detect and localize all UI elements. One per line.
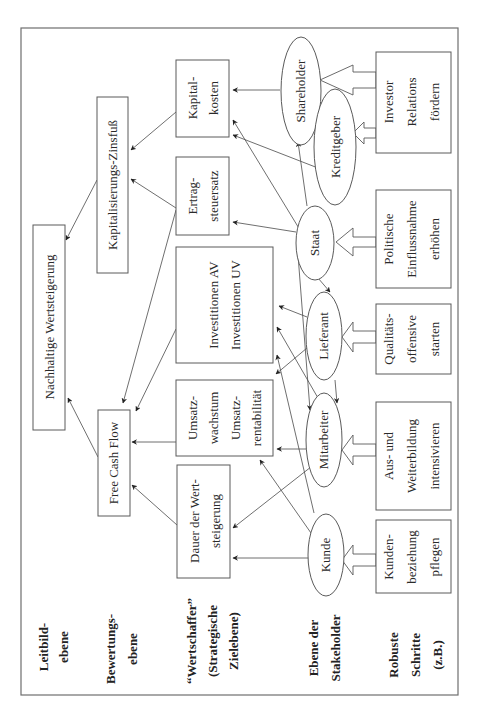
arrow-kundenbeziehung-kunde [342, 545, 376, 575]
stakeholder-kreditgeber: Kreditgeber [314, 89, 356, 205]
level-label-leitbild: Leitbild- ebene [36, 623, 71, 671]
svg-text:Investitionen AV: Investitionen AV [206, 261, 221, 349]
node-umsatz: Umsatz- wachstum Umsatz- rentabilität [176, 380, 273, 456]
svg-text:Politische: Politische [381, 213, 396, 265]
node-ertragsteuersatz: Ertrag- steuersatz [176, 157, 229, 235]
svg-text:Stakeholder: Stakeholder [328, 614, 343, 681]
node-kapitalisierungs-zinsfuss: Kapitalisierungs-Zinsfuß [97, 97, 128, 273]
svg-text:fördern: fördern [427, 82, 442, 121]
stakeholder-staat: Staat [296, 206, 334, 280]
svg-text:Nachhaltige Wertsteigerung: Nachhaltige Wertsteigerung [42, 254, 57, 399]
node-nachhaltige-wertsteigerung: Nachhaltige Wertsteigerung [33, 225, 65, 430]
svg-text:wachstum: wachstum [206, 392, 221, 445]
svg-text:Free Cash Flow: Free Cash Flow [106, 421, 121, 504]
svg-text:erhöhen: erhöhen [427, 218, 442, 260]
svg-text:Einflussnahme: Einflussnahme [404, 200, 419, 277]
svg-text:Kapital-: Kapital- [185, 77, 200, 120]
arrow-investor-kreditgeber [353, 122, 376, 144]
svg-text:Kreditgeber: Kreditgeber [328, 115, 343, 178]
stakeholder-kunde: Kunde [308, 514, 344, 596]
svg-text:Zielebene): Zielebene) [226, 612, 241, 670]
svg-text:Ertrag-: Ertrag- [185, 178, 200, 215]
svg-text:(z.B.): (z.B.) [430, 640, 445, 670]
svg-text:pflegen: pflegen [427, 537, 442, 576]
node-dauer-wertsteigerung: Dauer der Wert- steigerung [177, 465, 230, 578]
value-driver-diagram: Nachhaltige Wertsteigerung Kapitalisieru… [0, 0, 478, 714]
level-label-bewertung: Bewertungs- ebene [103, 614, 140, 684]
svg-text:Kapitalisierungs-Zinsfuß: Kapitalisierungs-Zinsfuß [105, 120, 120, 250]
svg-text:Aus- und: Aus- und [381, 431, 396, 480]
svg-text:starten: starten [427, 321, 442, 356]
svg-text:(Strategische: (Strategische [205, 605, 220, 677]
svg-text:Shareholder: Shareholder [293, 59, 308, 122]
svg-text:Investor: Investor [381, 80, 396, 123]
svg-text:intensivieren: intensivieren [427, 422, 442, 490]
svg-text:Kunden-: Kunden- [381, 534, 396, 580]
step-kundenbeziehung: Kunden- beziehung pflegen [376, 520, 451, 593]
node-free-cash-flow: Free Cash Flow [98, 410, 130, 516]
arrow-politisch-staat [336, 228, 376, 256]
svg-text:Qualitäts-: Qualitäts- [381, 313, 396, 364]
svg-text:steuersatz: steuersatz [206, 170, 221, 221]
svg-text:Leitbild-: Leitbild- [36, 623, 51, 671]
svg-text:kosten: kosten [206, 81, 221, 115]
node-investitionen: Investitionen AV Investitionen UV [176, 247, 273, 363]
svg-text:Staat: Staat [307, 230, 322, 256]
svg-text:Mitarbeiter: Mitarbeiter [316, 410, 331, 469]
svg-text:Dauer der Wert-: Dauer der Wert- [187, 479, 202, 563]
svg-text:ebene: ebene [56, 631, 71, 663]
svg-text:Schritte: Schritte [408, 633, 423, 677]
svg-text:“Wertschaffer”: “Wertschaffer” [184, 598, 199, 684]
arrow-investor-shareholder [320, 65, 376, 95]
svg-text:Bewertungs-: Bewertungs- [103, 614, 118, 684]
svg-text:Relations: Relations [404, 77, 419, 126]
stakeholder-mitarbeiter: Mitarbeiter [306, 393, 342, 487]
level-label-schritte: Robuste Schritte (z.B.) [386, 632, 445, 678]
level-label-wertschaffer: “Wertschaffer” (Strategische Zielebene) [184, 598, 241, 684]
step-qualitaetsoffensive: Qualitäts- offensive starten [376, 304, 451, 374]
svg-text:Weiterbildung: Weiterbildung [404, 418, 419, 493]
svg-text:rentabilität: rentabilität [249, 389, 264, 446]
svg-text:Investitionen UV: Investitionen UV [228, 259, 243, 350]
svg-text:Robuste: Robuste [386, 632, 401, 678]
level-label-stakeholder: Ebene der Stakeholder [306, 614, 343, 681]
svg-text:Lieferant: Lieferant [316, 312, 331, 360]
svg-text:Umsatz-: Umsatz- [228, 396, 243, 440]
svg-text:offensive: offensive [404, 315, 419, 363]
step-politische-einflussnahme: Politische Einflussnahme erhöhen [376, 190, 451, 288]
svg-text:steigerung: steigerung [208, 493, 223, 548]
stakeholder-lieferant: Lieferant [306, 292, 342, 380]
arrow-weiterbildung-mitarbeiter [342, 435, 376, 465]
svg-text:Ebene der: Ebene der [306, 619, 321, 676]
svg-text:ebene: ebene [125, 633, 140, 665]
svg-text:Kunde: Kunde [318, 537, 333, 572]
arrow-qualitaet-lieferant [342, 322, 376, 352]
node-kapitalkosten: Kapital- kosten [176, 60, 229, 137]
step-investor-relations: Investor Relations fördern [376, 52, 451, 153]
svg-text:Umsatz-: Umsatz- [185, 396, 200, 440]
step-weiterbildung: Aus- und Weiterbildung intensivieren [376, 402, 451, 510]
svg-text:beziehung: beziehung [404, 530, 419, 584]
